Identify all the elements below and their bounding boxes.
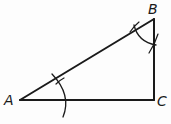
triangle-figure xyxy=(0,0,171,124)
vertex-label-b: B xyxy=(148,2,158,16)
side-ab xyxy=(20,19,154,100)
vertex-label-c: C xyxy=(157,94,167,108)
vertex-label-a: A xyxy=(4,93,14,107)
triangle-diagram: A B C xyxy=(0,0,171,124)
